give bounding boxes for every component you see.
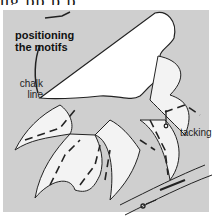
diagram-illustration: ng pp p p bbox=[0, 0, 217, 217]
title-line-2: the motifs bbox=[15, 41, 74, 53]
stem-line bbox=[120, 165, 205, 205]
diagram-title: positioning the motifs bbox=[15, 29, 74, 53]
chalk-label-line-2: line bbox=[13, 89, 43, 100]
chalk-label-line-1: chalk bbox=[13, 78, 43, 89]
tacking-label: tacking bbox=[180, 127, 212, 138]
title-line-1: positioning bbox=[15, 29, 74, 41]
chalk-line-label: chalk line bbox=[13, 78, 43, 100]
